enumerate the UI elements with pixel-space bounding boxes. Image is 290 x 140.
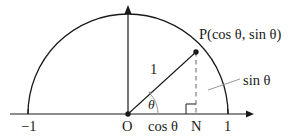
point-marker-p [193,49,198,54]
unit-circle-figure: P(cos θ, sin θ) 1 sin θ θ −1 O cos θ N 1 [0,0,290,140]
y-axis [124,5,131,114]
y-axis-arrowhead [124,5,131,14]
label-axis-positive-one: 1 [224,119,231,134]
label-foot-point-n: N [191,119,201,134]
right-angle-marker [186,104,196,114]
label-cosine-theta: cos θ [148,119,178,134]
label-axis-negative-one: −1 [21,119,36,134]
label-radius-length: 1 [150,62,157,77]
point-marker-origin [125,111,130,116]
label-sine-theta: sin θ [243,73,271,88]
label-point-p: P(cos θ, sin θ) [199,27,281,42]
x-axis [10,110,254,117]
unit-circle-diagram [0,0,290,140]
label-angle-theta: θ [148,98,155,112]
x-axis-arrowhead [246,110,254,117]
label-origin: O [122,119,132,134]
